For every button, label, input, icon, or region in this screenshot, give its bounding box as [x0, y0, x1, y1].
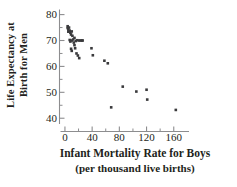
data-point — [175, 109, 178, 112]
data-point — [110, 106, 113, 109]
x-axis-title-line2: (per thousand live births) — [36, 161, 234, 176]
x-axis-tick-label: 0 — [52, 132, 78, 143]
x-axis-tick-label: 120 — [134, 132, 160, 143]
data-point — [106, 62, 109, 65]
data-point — [77, 54, 80, 57]
data-point — [78, 57, 81, 60]
x-axis-title-line1: Infant Mortality Rate for Boys — [36, 146, 234, 161]
data-point — [103, 59, 106, 62]
data-point — [145, 88, 148, 91]
data-point — [121, 85, 124, 88]
data-points — [66, 25, 177, 111]
data-point — [73, 37, 76, 40]
data-point — [81, 39, 84, 42]
data-point — [68, 26, 71, 29]
data-point — [135, 90, 138, 93]
x-axis-tick-label: 80 — [106, 132, 132, 143]
x-axis-tick-labels: 04080120160 — [0, 132, 237, 146]
x-axis-title: Infant Mortality Rate for Boys (per thou… — [36, 146, 234, 176]
data-point — [70, 50, 73, 53]
data-point — [74, 47, 77, 50]
data-point — [70, 30, 73, 33]
data-point — [73, 44, 76, 47]
x-axis-tick-label: 40 — [79, 132, 105, 143]
x-axis-tick-label: 160 — [161, 132, 187, 143]
scatter-plot-figure: Life Expectancy at Birth for Men 4050607… — [0, 0, 237, 187]
data-point — [146, 98, 149, 101]
data-point — [92, 54, 95, 57]
data-point — [90, 47, 93, 50]
axes — [60, 10, 190, 132]
